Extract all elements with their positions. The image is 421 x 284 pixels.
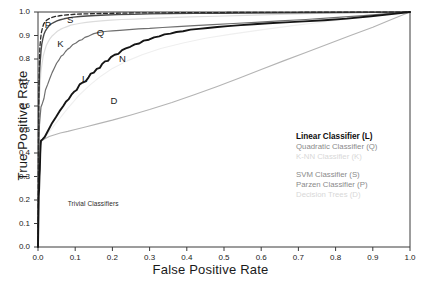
- curve-tag-k: K: [57, 38, 63, 49]
- x-tick-label: 0.1: [63, 253, 87, 262]
- roc-chart: False Positive Rate True Positive Rate 0…: [0, 0, 421, 284]
- y-tick-label: 0.5: [8, 125, 30, 134]
- x-tick-label: 0.5: [212, 253, 236, 262]
- trivial-classifiers-annotation: Trivial Classifiers: [68, 200, 119, 207]
- y-tick-label: 1.0: [8, 7, 30, 16]
- curve-tag-l: L: [82, 73, 87, 84]
- x-tick-label: 0.9: [361, 253, 385, 262]
- y-tick-label: 0.7: [8, 78, 30, 87]
- curve-tag-d: D: [111, 95, 118, 106]
- y-tick-label: 0.3: [8, 172, 30, 181]
- y-tick-label: 0.1: [8, 219, 30, 228]
- x-tick-label: 1.0: [398, 253, 421, 262]
- y-tick-label: 0.8: [8, 54, 30, 63]
- x-tick-label: 0.3: [138, 253, 162, 262]
- legend: Linear Classifier (L)Quadratic Classifie…: [296, 132, 406, 200]
- y-tick-label: 0.9: [8, 31, 30, 40]
- legend-entry: SVM Classifier (S): [296, 170, 406, 180]
- curve-tag-s: S: [67, 14, 73, 25]
- legend-entry: Parzen Classifier (P): [296, 180, 406, 190]
- roc-curve-d: [38, 12, 410, 247]
- roc-curve-q: [38, 12, 410, 247]
- y-tick-label: 0.0: [8, 242, 30, 251]
- legend-spacer: [296, 163, 406, 170]
- curve-tag-q: Q: [97, 27, 104, 38]
- x-tick-label: 0.8: [324, 253, 348, 262]
- y-tick-label: 0.2: [8, 195, 30, 204]
- x-tick-label: 0.7: [286, 253, 310, 262]
- y-tick-label: 0.4: [8, 148, 30, 157]
- legend-entry: Quadratic Classifier (Q): [296, 142, 406, 152]
- roc-curve-l: [38, 12, 410, 247]
- legend-entry: K-NN Classifier (K): [296, 152, 406, 162]
- y-tick-label: 0.6: [8, 101, 30, 110]
- legend-group-primary: Linear Classifier (L)Quadratic Classifie…: [296, 132, 406, 163]
- legend-group-secondary: SVM Classifier (S)Parzen Classifier (P)D…: [296, 170, 406, 201]
- x-tick-label: 0.2: [100, 253, 124, 262]
- x-tick-label: 0.6: [249, 253, 273, 262]
- curve-tag-n: N: [119, 53, 126, 64]
- roc-curve-n: [38, 12, 410, 247]
- legend-entry: Linear Classifier (L): [296, 132, 406, 142]
- curve-tag-p: P: [45, 19, 51, 30]
- roc-curve-s: [38, 12, 410, 247]
- x-tick-label: 0.4: [175, 253, 199, 262]
- x-tick-label: 0.0: [26, 253, 50, 262]
- legend-entry: Decision Trees (D): [296, 190, 406, 200]
- roc-curve-k: [38, 12, 410, 247]
- roc-curve-p: [38, 12, 410, 247]
- plot-frame: [38, 12, 410, 247]
- x-axis-title: False Positive Rate: [0, 262, 421, 277]
